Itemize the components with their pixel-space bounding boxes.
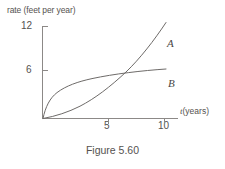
curve-label-a: A (167, 37, 174, 49)
figure-container: rate (feet per year) 12 6 5 10 t(years) … (0, 0, 225, 169)
curve-b (43, 69, 166, 119)
figure-caption: Figure 5.60 (0, 144, 225, 156)
curve-label-b: B (168, 77, 175, 89)
